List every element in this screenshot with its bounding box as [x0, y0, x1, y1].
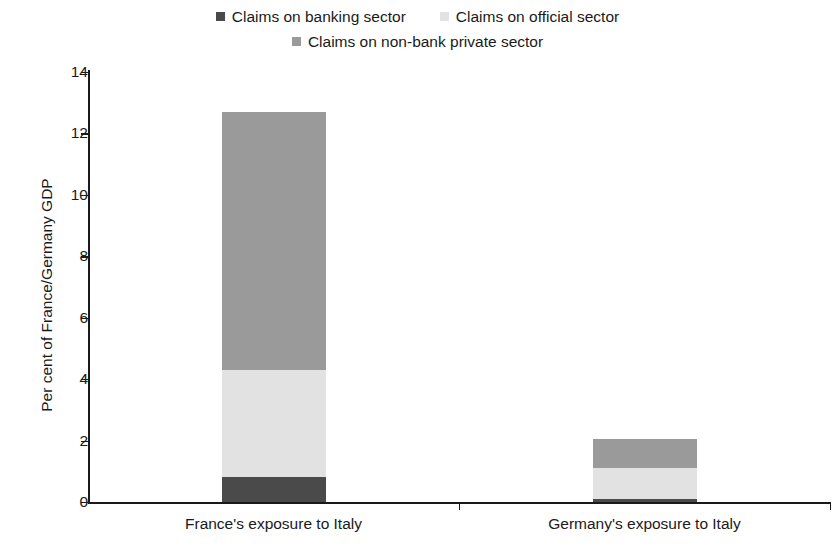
- y-tick-label: 6: [26, 310, 88, 326]
- bar-stack[interactable]: [593, 439, 697, 502]
- y-tick-label: 14: [26, 64, 88, 80]
- y-axis-title: Per cent of France/Germany GDP: [38, 130, 56, 460]
- x-axis-label: France's exposure to Italy: [88, 516, 459, 532]
- y-tick-label: 10: [26, 187, 88, 203]
- bar-stack[interactable]: [222, 112, 326, 502]
- y-axis-line: [88, 70, 90, 503]
- chart-plot-area: 02468101214 Per cent of France/Germany G…: [0, 0, 835, 551]
- y-tick-label: 0: [26, 494, 88, 510]
- x-axis-label: Germany's exposure to Italy: [459, 516, 830, 532]
- bar-segment[interactable]: [222, 112, 326, 370]
- x-tick-mark: [830, 502, 831, 510]
- y-tick-label: 2: [26, 433, 88, 449]
- bar-segment[interactable]: [593, 439, 697, 468]
- bar-segment[interactable]: [593, 499, 697, 502]
- bar-segment[interactable]: [222, 477, 326, 502]
- bar-segment[interactable]: [222, 370, 326, 478]
- x-tick-mark: [459, 502, 460, 510]
- y-tick-label: 8: [26, 248, 88, 264]
- bar-segment[interactable]: [593, 468, 697, 499]
- y-tick-label: 12: [26, 125, 88, 141]
- y-tick-label: 4: [26, 371, 88, 387]
